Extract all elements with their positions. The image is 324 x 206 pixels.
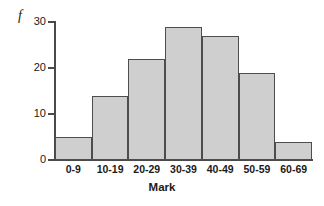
histogram-bar	[239, 73, 276, 160]
x-axis-title: Mark	[0, 181, 324, 193]
y-axis-tick-label: 10	[22, 108, 46, 119]
histogram-chart: f 0102030 0-910-1920-2930-3940-4950-5960…	[0, 0, 324, 206]
x-axis-tick-label: 30-39	[165, 164, 202, 175]
x-axis-tick-label: 0-9	[55, 164, 92, 175]
y-axis-tick	[48, 113, 54, 115]
histogram-bar	[165, 27, 202, 160]
histogram-bar	[202, 36, 239, 160]
x-axis-tick-label: 40-49	[202, 164, 239, 175]
x-axis-tick-label: 10-19	[92, 164, 129, 175]
y-axis-tick	[48, 159, 54, 161]
y-axis-tick	[48, 67, 54, 69]
x-axis-tick-label: 60-69	[275, 164, 312, 175]
y-axis-tick	[48, 21, 54, 23]
y-axis-tick-label: 0	[22, 154, 46, 165]
histogram-bar	[128, 59, 165, 160]
y-axis-tick-label: 30	[22, 16, 46, 27]
y-axis-tick-label: 20	[22, 62, 46, 73]
x-axis-tick-label: 20-29	[128, 164, 165, 175]
histogram-bar	[92, 96, 129, 160]
histogram-bar	[275, 142, 312, 160]
x-axis-tick-label: 50-59	[239, 164, 276, 175]
histogram-bar	[55, 137, 92, 160]
